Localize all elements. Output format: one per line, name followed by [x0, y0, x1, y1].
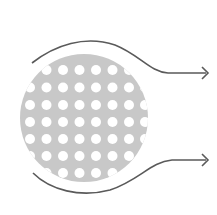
flow-diagram	[0, 0, 217, 215]
hole	[91, 168, 101, 178]
hole	[58, 151, 68, 161]
hole	[42, 168, 52, 178]
hole	[108, 83, 118, 93]
hole	[58, 83, 68, 93]
hole	[42, 134, 52, 144]
hole	[25, 151, 35, 161]
hole	[75, 134, 85, 144]
hole	[42, 100, 52, 110]
hole	[124, 100, 134, 110]
hole	[108, 65, 118, 75]
hole	[58, 168, 68, 178]
hole	[25, 83, 35, 93]
hole	[58, 65, 68, 75]
hole	[108, 151, 118, 161]
hole	[58, 100, 68, 110]
hole	[124, 65, 134, 75]
hole	[124, 83, 134, 93]
hole	[75, 168, 85, 178]
hole	[42, 151, 52, 161]
hole	[58, 134, 68, 144]
hole	[25, 117, 35, 127]
hole	[140, 83, 150, 93]
hole	[25, 65, 35, 75]
hole	[140, 134, 150, 144]
hole	[42, 117, 52, 127]
hole	[91, 100, 101, 110]
hole	[25, 134, 35, 144]
hole	[75, 117, 85, 127]
hole	[42, 65, 52, 75]
hole	[124, 134, 134, 144]
hole	[91, 117, 101, 127]
hole	[75, 83, 85, 93]
hole	[91, 83, 101, 93]
hole	[25, 100, 35, 110]
hole	[108, 168, 118, 178]
hole	[91, 151, 101, 161]
hole	[91, 65, 101, 75]
hole	[124, 168, 134, 178]
hole	[124, 117, 134, 127]
hole	[108, 134, 118, 144]
hole	[42, 83, 52, 93]
hole	[140, 117, 150, 127]
hole	[75, 65, 85, 75]
hole	[140, 100, 150, 110]
hole	[91, 134, 101, 144]
hole	[75, 151, 85, 161]
hole	[140, 151, 150, 161]
hole	[58, 117, 68, 127]
hole	[75, 100, 85, 110]
hole	[108, 100, 118, 110]
hole	[140, 65, 150, 75]
perforated-body	[20, 54, 150, 182]
hole	[108, 117, 118, 127]
hole	[124, 151, 134, 161]
